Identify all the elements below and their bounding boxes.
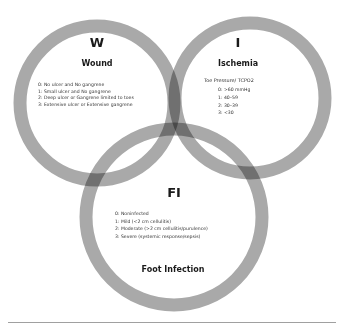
foot-infection-grades: 0: Noninfected 1: Mild (<2 cm cellulitis… — [115, 210, 208, 240]
ischemia-grade-3: 3: <30 — [218, 109, 250, 117]
ischemia-grades: 0: >60 mmHg 1: 40–59 2: 30–39 3: <30 — [218, 86, 250, 117]
wound-title: Wound — [70, 59, 124, 68]
wound-grades: 0: No ulcer and No gangrene 1: Small ulc… — [38, 82, 134, 109]
foot-infection-grade-0: 0: Noninfected — [115, 210, 208, 218]
wound-grade-3: 3: Extensive ulcer or Extensive gangrene — [38, 102, 134, 109]
foot-infection-grade-2: 2: Moderate (>2 cm cellulitis/purulence) — [115, 225, 208, 233]
foot-infection-grade-3: 3: Severe (systemic response/sepsis) — [115, 233, 208, 241]
foot-infection-grade-1: 1: Mild (<2 cm cellulitis) — [115, 218, 208, 226]
foot-infection-title: Foot Infection — [130, 265, 216, 274]
bottom-divider — [8, 322, 336, 323]
wound-grade-1: 1: Small ulcer and No gangrene — [38, 89, 134, 96]
ischemia-letter: I — [226, 35, 250, 50]
wound-letter: W — [85, 35, 109, 50]
wound-grade-2: 2: Deep ulcer or Gangrene limited to toe… — [38, 95, 134, 102]
ischemia-grade-2: 2: 30–39 — [218, 102, 250, 110]
ischemia-grade-1: 1: 40–59 — [218, 94, 250, 102]
ischemia-grade-0: 0: >60 mmHg — [218, 86, 250, 94]
ischemia-title: Ischemia — [208, 59, 268, 68]
ischemia-subtitle: Toe Pressure/ TCPO2 — [204, 77, 254, 83]
foot-infection-letter: FI — [160, 185, 188, 200]
venn-rings — [0, 0, 345, 329]
wound-grade-0: 0: No ulcer and No gangrene — [38, 82, 134, 89]
